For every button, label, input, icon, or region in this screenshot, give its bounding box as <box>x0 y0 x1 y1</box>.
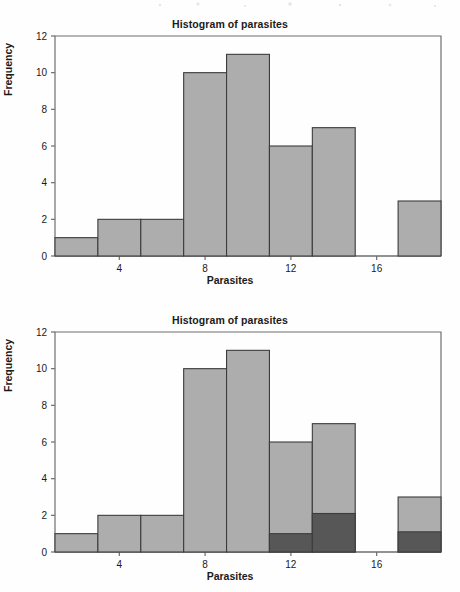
histogram-bar-highlight <box>398 532 441 552</box>
y-axis-tick-label: 10 <box>36 67 48 78</box>
y-axis-tick-label: 6 <box>41 141 47 152</box>
chart-top-plot: 024681012481216 <box>0 0 460 296</box>
histogram-bar <box>98 219 141 256</box>
y-axis-tick-label: 10 <box>36 363 48 374</box>
y-axis-tick-label: 6 <box>41 437 47 448</box>
y-axis-tick-label: 2 <box>41 510 47 521</box>
y-axis-tick-label: 0 <box>41 547 47 558</box>
x-axis-tick-label: 8 <box>202 559 208 570</box>
x-axis-tick-label: 4 <box>117 559 123 570</box>
y-axis-tick-label: 12 <box>36 31 48 42</box>
histogram-bar <box>398 201 441 256</box>
histogram-bar <box>227 350 270 552</box>
histogram-bar <box>184 73 227 256</box>
histogram-bar <box>55 534 98 552</box>
histogram-bar <box>227 54 270 256</box>
histogram-bar <box>141 515 184 552</box>
histogram-bar-highlight <box>269 534 312 552</box>
x-axis-tick-label: 4 <box>117 263 123 274</box>
chart-top: Histogram of parasites Frequency Parasit… <box>0 0 460 296</box>
y-axis-tick-label: 8 <box>41 104 47 115</box>
y-axis-tick-label: 8 <box>41 400 47 411</box>
page-canvas: Histogram of parasites Frequency Parasit… <box>0 0 460 592</box>
histogram-bar <box>184 369 227 552</box>
chart-bottom-plot: 024681012481216 <box>0 296 460 592</box>
x-axis-tick-label: 12 <box>285 263 297 274</box>
x-axis-tick-label: 12 <box>285 559 297 570</box>
y-axis-tick-label: 4 <box>41 473 47 484</box>
histogram-bar <box>98 515 141 552</box>
y-axis-tick-label: 0 <box>41 251 47 262</box>
y-axis-tick-label: 12 <box>36 327 48 338</box>
histogram-bar-highlight <box>312 514 355 553</box>
y-axis-tick-label: 2 <box>41 214 47 225</box>
histogram-bar <box>141 219 184 256</box>
x-axis-tick-label: 16 <box>371 559 383 570</box>
x-axis-tick-label: 8 <box>202 263 208 274</box>
histogram-bar <box>55 238 98 256</box>
histogram-bar <box>312 128 355 256</box>
x-axis-tick-label: 16 <box>371 263 383 274</box>
chart-bottom: Histogram of parasites Frequency Parasit… <box>0 296 460 592</box>
y-axis-tick-label: 4 <box>41 177 47 188</box>
histogram-bar <box>269 146 312 256</box>
